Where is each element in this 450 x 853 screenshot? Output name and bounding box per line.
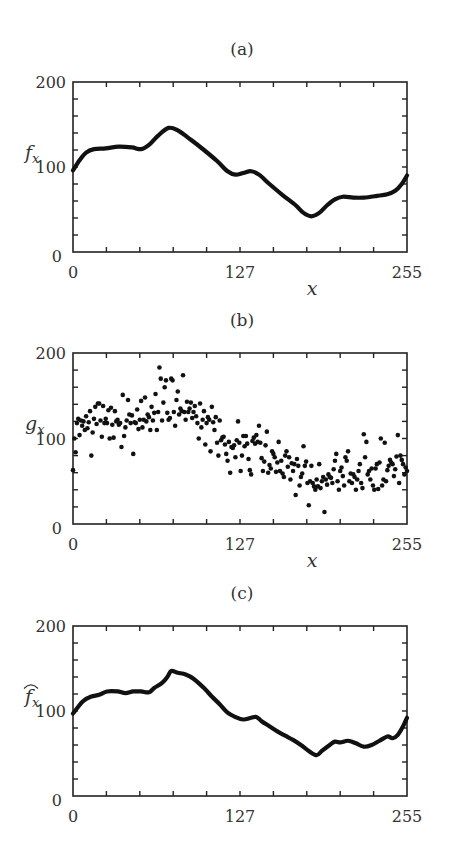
ticks xyxy=(73,82,407,252)
x-tick-label: 127 xyxy=(225,807,256,826)
panel-title: (c) xyxy=(231,583,254,603)
x-tick-label: 0 xyxy=(68,535,78,554)
x-tick-label: 127 xyxy=(225,263,256,282)
plot-frame xyxy=(73,82,407,252)
panel-title: (b) xyxy=(230,310,254,330)
panel-c: (c)20010000127255fx xyxy=(23,583,422,826)
plot-frame xyxy=(73,626,407,796)
data-line xyxy=(73,671,407,755)
x-axis-label: x xyxy=(307,277,318,299)
y-tick-label: 0 xyxy=(52,519,62,538)
x-axis-label: x xyxy=(307,549,318,571)
x-tick-label: 255 xyxy=(392,807,423,826)
y-tick-label: 0 xyxy=(52,247,62,266)
ticks xyxy=(73,353,407,524)
scatter-points xyxy=(71,365,410,514)
panel-a: (a)20010000127255fxx xyxy=(23,39,422,299)
x-tick-label: 127 xyxy=(225,535,256,554)
x-tick-label: 0 xyxy=(68,263,78,282)
plot-frame xyxy=(73,353,407,524)
panel-b: (b)20010000127255gxx xyxy=(25,310,422,571)
ticks xyxy=(73,626,407,796)
x-tick-label: 255 xyxy=(392,263,423,282)
y-tick-label: 200 xyxy=(35,617,66,636)
y-tick-label: 0 xyxy=(52,791,62,810)
x-tick-label: 255 xyxy=(392,535,423,554)
y-axis-label: fx xyxy=(23,141,40,166)
y-tick-label: 200 xyxy=(35,344,66,363)
figure: (a)20010000127255fxx(b)20010000127255gxx… xyxy=(0,0,450,853)
y-axis-label: gx xyxy=(25,412,45,437)
y-tick-label: 100 xyxy=(35,158,66,177)
y-tick-label: 100 xyxy=(35,702,66,721)
y-tick-label: 200 xyxy=(35,73,66,92)
x-tick-label: 0 xyxy=(68,807,78,826)
panel-title: (a) xyxy=(230,39,253,59)
data-line xyxy=(73,128,407,217)
